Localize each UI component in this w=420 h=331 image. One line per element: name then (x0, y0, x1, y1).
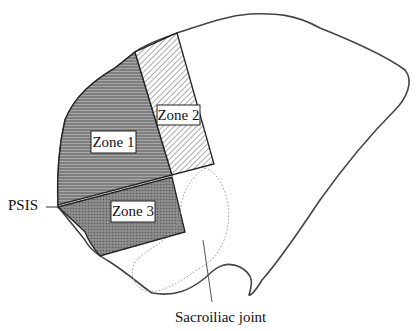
svg-text:Zone 1: Zone 1 (92, 134, 134, 150)
pelvis-zone-diagram: Zone 1 Zone 2 Zone 3 PSIS Sacroiliac joi… (0, 0, 420, 331)
psis-label: PSIS (8, 197, 38, 213)
zone-2-label: Zone 2 (157, 105, 200, 125)
sacroiliac-label: Sacroiliac joint (175, 309, 267, 325)
svg-text:Zone 3: Zone 3 (112, 203, 154, 219)
zone-1-label: Zone 1 (91, 131, 136, 153)
svg-text:Zone 2: Zone 2 (157, 107, 199, 123)
zone-3-label: Zone 3 (111, 201, 155, 222)
